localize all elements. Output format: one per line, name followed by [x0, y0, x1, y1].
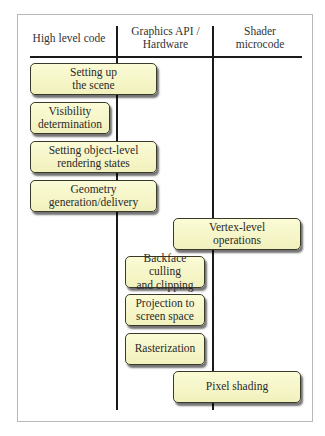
stage-vertex-level-operations: Vertex-level operations	[173, 218, 301, 250]
stage-pixel-shading: Pixel shading	[173, 371, 301, 403]
header-divider-line	[30, 56, 302, 58]
stage-backface-culling-clipping: Backface culling and clipping	[125, 256, 205, 288]
stage-geometry-generation: Geometry generation/delivery	[30, 180, 157, 212]
column-header-shader-microcode: Shader microcode	[215, 22, 305, 54]
stage-projection-screen-space: Projection to screen space	[125, 294, 205, 326]
column-header-high-level-code: High level code	[22, 22, 116, 54]
stage-setting-up-scene: Setting up the scene	[30, 63, 157, 95]
column-header-graphics-api-hardware: Graphics API / Hardware	[119, 22, 212, 54]
stage-object-level-rendering-states: Setting object-level rendering states	[30, 141, 157, 173]
stage-rasterization: Rasterization	[125, 333, 205, 365]
stage-visibility-determination: Visibility determination	[30, 102, 110, 134]
